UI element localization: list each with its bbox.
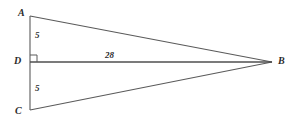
segment-CB [30,62,272,110]
measure-label-dc: 5 [34,84,41,93]
measure-label-db: 28 [104,51,115,60]
measure-label-ad: 5 [34,31,41,40]
vertex-label-a: A [18,8,25,18]
right-angle-mark-D [30,55,37,62]
vertex-label-b: B [278,56,285,66]
vertex-label-d: D [14,56,21,66]
segment-AB [30,16,272,62]
geometry-figure: A D C B 5 5 28 [0,0,291,128]
vertex-label-c: C [15,106,22,116]
figure-canvas [0,0,291,128]
